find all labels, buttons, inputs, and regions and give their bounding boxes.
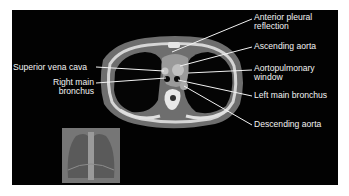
label-right-main-bronchus: Right main bronchus bbox=[46, 78, 94, 97]
label-anterior-pleural-reflection: Anterior pleural reflection bbox=[254, 13, 312, 32]
label-line: window bbox=[254, 73, 315, 82]
scout-radiograph-inset bbox=[62, 128, 120, 183]
label-ascending-aorta: Ascending aorta bbox=[254, 42, 316, 51]
label-line: bronchus bbox=[46, 87, 94, 96]
label-superior-vena-cava: Superior vena cava bbox=[13, 63, 87, 72]
label-left-main-bronchus: Left main bronchus bbox=[254, 91, 327, 100]
label-aortopulmonary-window: Aortopulmonary window bbox=[254, 64, 315, 83]
label-line: reflection bbox=[254, 22, 312, 31]
label-descending-aorta: Descending aorta bbox=[254, 120, 321, 129]
